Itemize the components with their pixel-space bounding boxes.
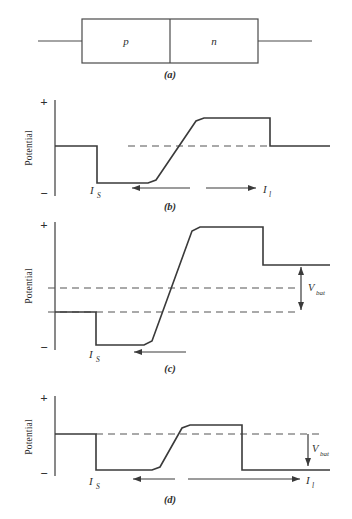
- panel-c-group: + − Potential V bat I S (c): [24, 217, 330, 375]
- vbat-sub-d: bat: [320, 450, 330, 458]
- current-sub-il-d: l: [312, 481, 314, 490]
- axis-label-b: Potential: [24, 130, 34, 166]
- current-sub-is-d: S: [96, 482, 100, 491]
- axis-minus-d: −: [40, 466, 47, 481]
- current-label-il-d: I: [305, 474, 311, 486]
- vbat-label-d: V: [312, 443, 320, 454]
- pn-junction-figure: p n (a) + − Potential I S I l (b) + −: [0, 0, 352, 519]
- current-label-is-c: I: [88, 348, 94, 360]
- axis-plus-d: +: [40, 390, 47, 405]
- axis-minus-c: −: [40, 340, 47, 355]
- panel-caption-c: (c): [164, 363, 176, 375]
- panel-b-group: + − Potential I S I l (b): [24, 94, 330, 213]
- arrow-is-d: [133, 476, 175, 482]
- arrow-il-d: [188, 476, 300, 482]
- potential-curve-b: [55, 118, 330, 183]
- current-sub-is-b: S: [97, 191, 101, 200]
- axis-minus-b: −: [40, 186, 47, 201]
- current-label-il-b: I: [262, 183, 268, 195]
- panel-d-group: + − Potential V bat I S I l (d): [24, 390, 330, 506]
- region-label-p: p: [122, 35, 129, 47]
- axis-plus-c: +: [40, 217, 47, 232]
- current-sub-il-b: l: [269, 190, 271, 199]
- current-label-is-b: I: [89, 184, 95, 196]
- potential-curve-d: [55, 425, 330, 470]
- vbat-indicator-d: [305, 434, 311, 466]
- current-sub-is-c: S: [96, 355, 100, 364]
- arrow-il-b: [206, 185, 256, 191]
- vbat-indicator-c: [298, 267, 304, 310]
- panel-caption-b: (b): [164, 201, 176, 213]
- axis-label-c: Potential: [24, 268, 34, 304]
- potential-curve-c: [55, 227, 330, 345]
- panel-caption-a: (a): [164, 69, 176, 81]
- panel-caption-d: (d): [164, 494, 176, 506]
- arrow-is-c: [134, 349, 186, 355]
- vbat-sub-c: bat: [316, 289, 326, 297]
- vbat-label-c: V: [308, 282, 316, 293]
- axis-plus-b: +: [40, 94, 47, 109]
- arrow-is-b: [132, 185, 190, 191]
- panel-a-group: p n (a): [38, 19, 312, 81]
- axis-label-d: Potential: [24, 419, 34, 455]
- region-label-n: n: [211, 35, 217, 47]
- current-label-is-d: I: [88, 475, 94, 487]
